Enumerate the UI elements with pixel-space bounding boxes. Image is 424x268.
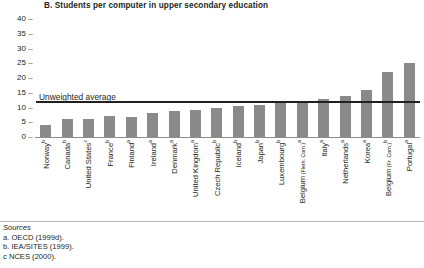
x-axis-label-cell: Franceb	[99, 140, 120, 218]
bar-cell	[185, 19, 206, 137]
x-axis-label-footnote: a	[168, 140, 174, 143]
bar[interactable]	[297, 102, 308, 137]
bar[interactable]	[318, 99, 329, 137]
x-axis-label: Portugala	[405, 140, 414, 171]
bar[interactable]	[275, 103, 286, 137]
y-axis-tick: 5–	[13, 117, 35, 127]
x-axis-label-footnote: a	[404, 140, 410, 143]
chart-title: B. Students per computer in upper second…	[44, 1, 268, 10]
bar[interactable]	[254, 105, 265, 137]
x-axis-labels: NorwaybCanadabUnited StatescFrancebFinla…	[35, 140, 420, 218]
x-axis-label-footnote: b	[275, 140, 281, 143]
x-axis-label: Luxembourgb	[276, 140, 285, 185]
x-axis-label: Belgium (Flem. Com.)a	[298, 140, 307, 203]
bar[interactable]	[211, 108, 222, 137]
y-axis-tick: 35–	[13, 29, 35, 39]
x-axis-label: Italya	[319, 140, 328, 157]
x-axis-label-cell: Luxembourgb	[270, 140, 291, 218]
source-item: a. OECD (1999d).	[3, 233, 74, 243]
x-axis-label: United Kingdoma	[191, 140, 200, 197]
x-axis-label-cell: United Kingdoma	[185, 140, 206, 218]
sources-block: Sources a. OECD (1999d). b. IEA/SITES (1…	[3, 223, 74, 261]
plot-area	[35, 19, 420, 137]
x-axis-label-cell: Icelandb	[228, 140, 249, 218]
y-axis-tick-mark: –	[26, 103, 35, 113]
bar-cell	[356, 19, 377, 137]
x-axis-label-cell: Portugala	[399, 140, 420, 218]
source-item: b. IEA/SITES (1999).	[3, 242, 74, 252]
bar-series	[35, 19, 420, 137]
bar-cell	[206, 19, 227, 137]
bar-cell	[399, 19, 420, 137]
y-axis-tick-mark: –	[26, 117, 35, 127]
bar-cell	[334, 19, 355, 137]
bar-cell	[292, 19, 313, 137]
bar-cell	[377, 19, 398, 137]
x-axis-label-cell: Canadab	[56, 140, 77, 218]
x-axis-label-footnote: b	[40, 140, 46, 143]
bar[interactable]	[404, 63, 415, 137]
y-axis-tick-label: 40	[13, 14, 26, 24]
x-axis-label-footnote: b	[211, 140, 217, 143]
bar[interactable]	[361, 90, 372, 137]
bar-cell	[56, 19, 77, 137]
bar-cell	[78, 19, 99, 137]
bar-cell	[142, 19, 163, 137]
y-axis-tick-label: 10	[13, 103, 26, 113]
bar-cell	[121, 19, 142, 137]
x-axis-label-cell: Japanb	[249, 140, 270, 218]
bar-cell	[163, 19, 184, 137]
x-axis-label: Icelandb	[234, 140, 243, 167]
x-axis-label-qualifier: (Fr. Com.)	[386, 143, 392, 169]
x-axis-label-cell: United Statesc	[78, 140, 99, 218]
x-axis-label-footnote: a	[340, 140, 346, 143]
bar[interactable]	[40, 125, 51, 137]
y-axis-tick-label: 0	[13, 132, 26, 142]
x-axis-label-cell: Norwayb	[35, 140, 56, 218]
bar-cell	[249, 19, 270, 137]
bar[interactable]	[382, 72, 393, 137]
x-axis-label-footnote: a	[361, 140, 367, 143]
x-axis-label-cell: Netherlandsa	[334, 140, 355, 218]
y-axis-tick-mark: –	[26, 132, 35, 142]
bar[interactable]	[126, 117, 137, 137]
x-axis-label-footnote: b	[62, 140, 68, 143]
x-axis-label: Irelanda	[148, 140, 157, 166]
bar[interactable]	[233, 106, 244, 137]
y-axis-tick-label: 25	[13, 58, 26, 68]
x-axis-label-cell: Koreaa	[356, 140, 377, 218]
x-axis-label: Norwayb	[41, 140, 50, 169]
x-axis-label-footnote: a	[126, 140, 132, 143]
x-axis-label: Denmarka	[169, 140, 178, 174]
x-axis-label: Franceb	[105, 140, 114, 167]
x-axis-label-cell: Czech Republicb	[206, 140, 227, 218]
y-axis-tick-mark: –	[26, 88, 35, 98]
x-axis-label-footnote: b	[254, 140, 260, 143]
y-axis-tick-label: 5	[13, 117, 26, 127]
x-axis-label-qualifier: (Flem. Com.)	[300, 143, 306, 176]
y-axis-tick-mark: –	[26, 29, 35, 39]
x-axis-label-footnote: b	[104, 140, 110, 143]
unweighted-average-label: Unweighted average	[39, 92, 116, 102]
x-axis-label: Netherlandsa	[341, 140, 350, 184]
x-axis-label-footnote: a	[147, 140, 153, 143]
y-axis-tick-mark: –	[26, 14, 35, 24]
x-axis-label-cell: Denmarka	[163, 140, 184, 218]
x-axis-label-cell: Belgium (Flem. Com.)a	[292, 140, 313, 218]
bar[interactable]	[62, 119, 73, 137]
x-axis-label: Japanb	[255, 140, 264, 164]
bar[interactable]	[190, 110, 201, 137]
x-axis-label: Czech Republicb	[212, 140, 221, 196]
x-axis-label-footnote: b	[233, 140, 239, 143]
bar[interactable]	[147, 113, 158, 137]
bar[interactable]	[104, 116, 115, 137]
bar-cell	[270, 19, 291, 137]
y-axis-tick-label: 35	[13, 29, 26, 39]
bar[interactable]	[169, 111, 180, 137]
x-axis-label: Belgium (Fr. Com.)b	[383, 140, 392, 196]
bar-cell	[228, 19, 249, 137]
x-axis-label: United Statesc	[84, 140, 93, 188]
bar[interactable]	[83, 119, 94, 137]
x-axis-label-footnote: a	[297, 140, 303, 143]
x-axis-label-cell: Belgium (Fr. Com.)b	[377, 140, 398, 218]
